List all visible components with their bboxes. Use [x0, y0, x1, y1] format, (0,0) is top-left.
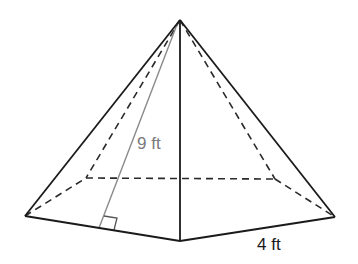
- hidden-edge-left-back-left: [25, 178, 86, 216]
- hidden-edge-back-right-right: [275, 179, 335, 217]
- visible-edges: [25, 20, 335, 241]
- pyramid-diagram: 9 ft 4 ft: [0, 0, 358, 264]
- pyramid-figure: [0, 0, 358, 264]
- hidden-edge-apex-back-right: [180, 20, 275, 179]
- hidden-edge-apex-back-left: [86, 20, 180, 178]
- edge-apex-left: [25, 20, 180, 216]
- slant-height-label: 9 ft: [137, 135, 161, 152]
- right-angle-marker: [104, 216, 117, 230]
- slant-height-line: [99, 22, 178, 228]
- base-edge-label: 4 ft: [257, 236, 281, 253]
- edge-apex-right: [180, 20, 335, 217]
